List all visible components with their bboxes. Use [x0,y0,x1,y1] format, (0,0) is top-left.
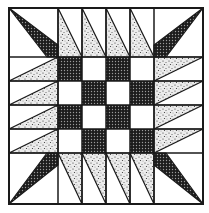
checker-cell [106,105,130,129]
checker-cell [82,129,106,153]
checker-cell [58,105,82,129]
checker-cell [82,81,106,105]
checker-cell [106,81,130,105]
checker-cell [130,105,154,129]
quilt-block [0,0,209,213]
checker-cell [130,57,154,81]
checker-cell [58,129,82,153]
checker-cell [58,57,82,81]
checker-cell [82,105,106,129]
checker-cell [106,57,130,81]
checker-cell [130,129,154,153]
checker-cell [130,81,154,105]
checker-cell [82,57,106,81]
checker-cell [58,81,82,105]
checker-cell [106,129,130,153]
